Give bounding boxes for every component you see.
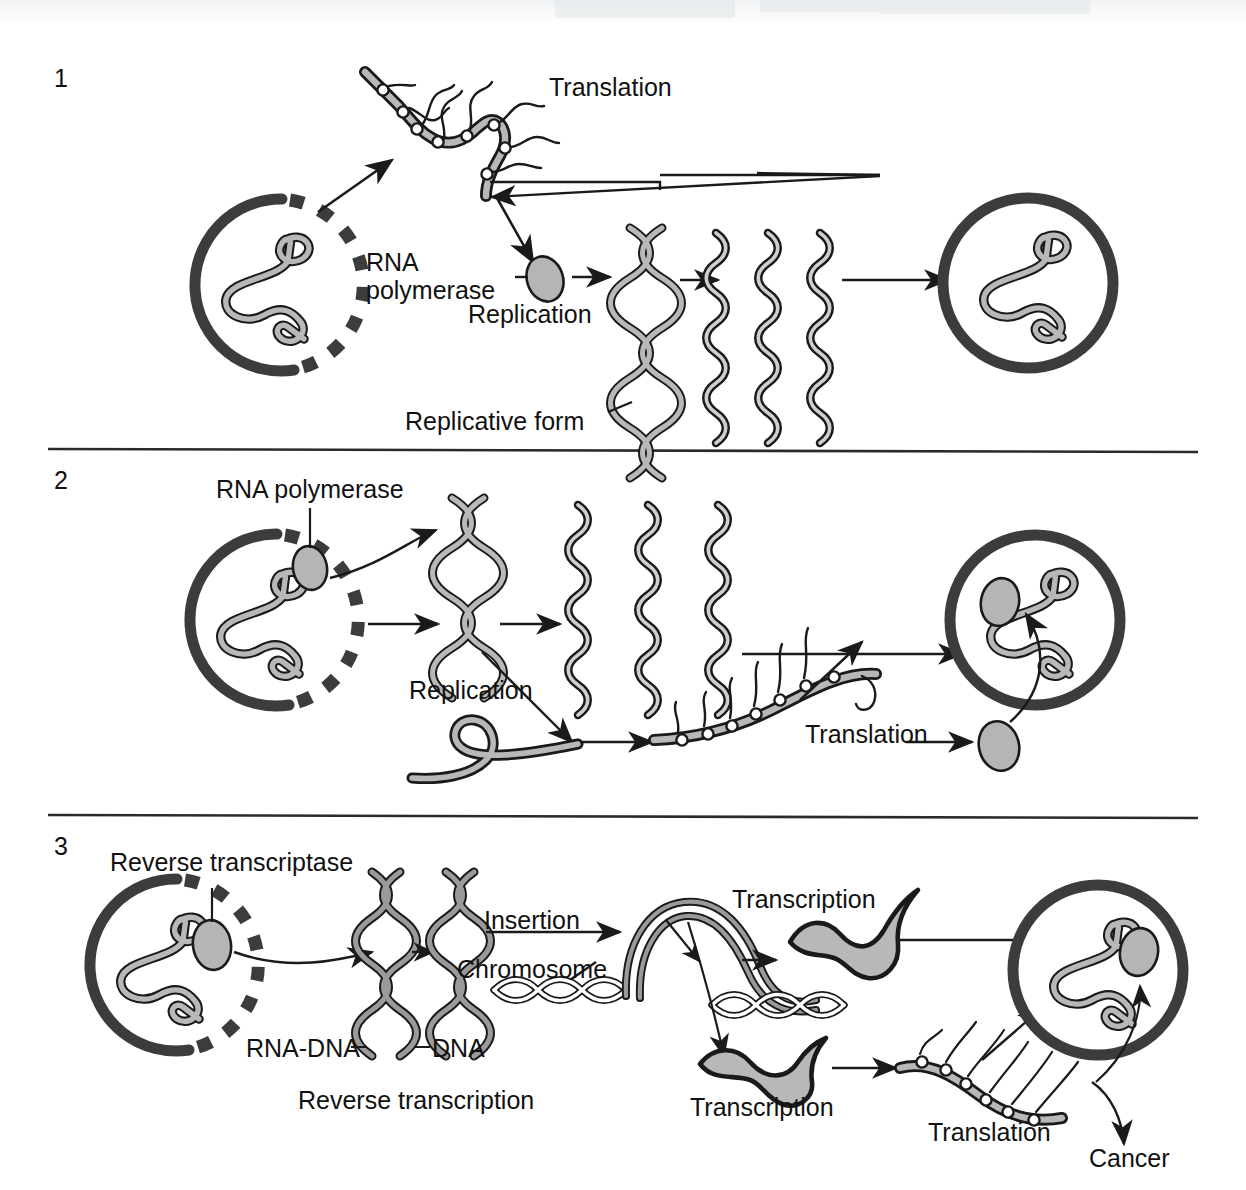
p2-label-replication: Replication bbox=[409, 676, 533, 704]
p1-virion-left bbox=[195, 199, 363, 371]
p3-dna-leader bbox=[414, 1046, 430, 1048]
p3-label-insertion: Insertion bbox=[484, 906, 580, 934]
panel-1-number: 1 bbox=[54, 64, 68, 92]
panel-1-artwork bbox=[195, 72, 1113, 478]
p3-arrow-rt-to-hybrid bbox=[234, 952, 372, 963]
p3-rna-dna-hybrid bbox=[356, 872, 417, 1056]
p3-arrow-to-cancer bbox=[1092, 1082, 1124, 1144]
p2-virion-right bbox=[950, 535, 1120, 705]
panel-2-number: 2 bbox=[54, 466, 68, 494]
p3-reverse-transcriptase-icon bbox=[190, 918, 235, 973]
p3-virion-left bbox=[90, 879, 258, 1051]
panel-3-artwork bbox=[90, 872, 1183, 1144]
figure-canvas: 1 Translation RNA polymerase Replication… bbox=[0, 0, 1246, 1190]
p3-label-reverse-transcriptase: Reverse transcriptase bbox=[110, 848, 353, 876]
p2-free-polymerase-icon bbox=[974, 717, 1025, 775]
p3-label-cancer: Cancer bbox=[1089, 1144, 1170, 1172]
p3-rna-dna-leader bbox=[351, 1046, 367, 1048]
p3-label-reverse-transcription: Reverse transcription bbox=[298, 1086, 534, 1114]
panel-3-number: 3 bbox=[54, 832, 68, 860]
p3-label-translation: Translation bbox=[928, 1118, 1051, 1146]
p2-replicative-form bbox=[433, 498, 504, 698]
p3-label-chromosome: Chromosome bbox=[457, 955, 607, 983]
panel-2-artwork bbox=[190, 498, 1120, 778]
p1-progeny-rna-strands bbox=[706, 233, 830, 443]
divider-1-2 bbox=[48, 449, 1198, 452]
p3-arrow-provirus-to-mrna bbox=[688, 922, 724, 1056]
p1-arrow-to-polymerase bbox=[497, 198, 533, 262]
p2-progeny-rna-strands bbox=[568, 505, 728, 715]
p1-label-rna-line1: RNA bbox=[366, 248, 419, 276]
p1-label-replicative-form: Replicative form bbox=[405, 407, 584, 435]
p2-label-translation: Translation bbox=[805, 720, 928, 748]
p1-arrow-uncoat-to-polysome bbox=[318, 160, 392, 212]
divider-2-3 bbox=[48, 815, 1198, 818]
p3-label-dna: DNA bbox=[432, 1034, 485, 1062]
p1-rna-polymerase-icon bbox=[521, 252, 569, 307]
p1-virion-right bbox=[943, 198, 1113, 368]
p1-label-translation: Translation bbox=[549, 73, 672, 101]
p3-label-transcription-lower: Transcription bbox=[690, 1093, 834, 1121]
p1-polysome bbox=[365, 72, 559, 196]
p1-arrow-back-to-polysome bbox=[492, 176, 880, 197]
diagram-artwork bbox=[0, 0, 1246, 1190]
p3-label-rna-dna: RNA-DNA bbox=[246, 1034, 360, 1062]
p3-label-transcription-upper: Transcription bbox=[732, 885, 876, 913]
p3-virion-right bbox=[1013, 885, 1183, 1055]
p2-virion-left bbox=[190, 534, 358, 706]
p1-replicative-form bbox=[611, 228, 682, 478]
p2-label-rna-polymerase: RNA polymerase bbox=[216, 475, 404, 503]
p1-label-replication: Replication bbox=[468, 300, 592, 328]
p2-mrna-loop bbox=[412, 720, 578, 779]
